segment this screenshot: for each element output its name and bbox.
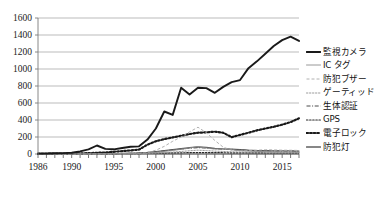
legend-item-6[interactable]: GPS [306, 113, 381, 127]
legend-item-label: 防犯ブザー [323, 75, 367, 84]
y-tick-label: 0 [27, 149, 32, 159]
legend-item-label: 生体認証 [323, 102, 358, 111]
legend-item-1[interactable]: 監視カメラ [306, 45, 381, 59]
legend-line-swatch [306, 114, 321, 126]
y-axis-tick-labels: 02004006008001000120014001600 [13, 13, 32, 159]
y-tick-label: 200 [18, 132, 33, 142]
y-tick-label: 800 [18, 81, 33, 91]
legend-item-label: 電子ロック [323, 129, 367, 138]
legend-line-swatch [306, 59, 321, 71]
legend-item-8[interactable]: 防犯灯 [306, 140, 381, 154]
line-chart: 02004006008001000120014001600 1986199019… [0, 0, 381, 204]
legend-line-swatch [306, 141, 321, 153]
legend-item-label: IC タグ [323, 61, 351, 70]
legend-item-2[interactable]: IC タグ [306, 59, 381, 73]
legend-item-label: GPS [323, 115, 340, 124]
x-tick-label: 1986 [29, 162, 48, 172]
x-tick-label: 2015 [273, 162, 292, 172]
legend-item-7[interactable]: 電子ロック [306, 127, 381, 141]
y-tick-label: 600 [18, 98, 33, 108]
y-tick-label: 1000 [13, 64, 32, 74]
y-tick-label: 1400 [13, 30, 32, 40]
x-tick-label: 1990 [62, 162, 81, 172]
y-tick-label: 1200 [13, 47, 32, 57]
y-tick-label: 400 [18, 115, 33, 125]
legend-line-swatch [306, 87, 321, 99]
legend-item-label: ゲーティッド [323, 88, 375, 97]
x-tick-label: 2010 [231, 162, 250, 172]
x-tick-label: 2005 [188, 162, 207, 172]
x-tick-label: 1995 [104, 162, 123, 172]
y-tick-label: 1600 [13, 13, 32, 23]
legend-line-swatch [306, 127, 321, 139]
legend-item-4[interactable]: ゲーティッド [306, 86, 381, 100]
legend-item-3[interactable]: 防犯ブザー [306, 72, 381, 86]
legend-item-label: 監視カメラ [323, 48, 367, 57]
legend-line-swatch [306, 73, 321, 85]
series-line [38, 37, 299, 154]
chart-legend: 監視カメラIC タグ防犯ブザーゲーティッド生体認証GPS電子ロック防犯灯 [306, 45, 381, 154]
x-axis-tick-labels: 1986199019952000200520102015 [29, 162, 292, 172]
legend-item-label: 防犯灯 [323, 143, 349, 152]
legend-line-swatch [306, 100, 321, 112]
legend-line-swatch [306, 46, 321, 58]
x-axis [38, 154, 299, 158]
x-tick-label: 2000 [146, 162, 165, 172]
legend-item-5[interactable]: 生体認証 [306, 99, 381, 113]
data-series-group [38, 37, 299, 154]
gridlines [35, 18, 299, 154]
series-line [38, 118, 299, 153]
